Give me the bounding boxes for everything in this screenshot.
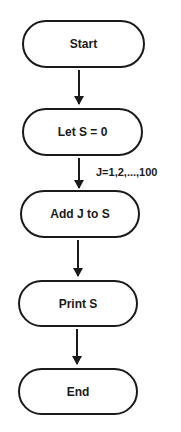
arrow-print-to-end <box>76 329 78 364</box>
node-add-label: Add J to S <box>50 207 109 221</box>
node-print: Print S <box>18 280 138 327</box>
arrow-init-to-add <box>78 158 80 188</box>
node-init-label: Let S = 0 <box>58 125 108 139</box>
node-start-label: Start <box>70 37 97 51</box>
node-print-label: Print S <box>59 297 98 311</box>
node-init: Let S = 0 <box>22 108 143 156</box>
node-start: Start <box>22 20 145 68</box>
node-end-label: End <box>67 385 90 399</box>
node-end: End <box>18 368 138 415</box>
loop-range-label: J=1,2,...,100 <box>96 166 157 178</box>
arrow-add-to-print <box>77 240 79 276</box>
node-add: Add J to S <box>20 190 140 238</box>
arrow-start-to-init <box>78 70 80 104</box>
